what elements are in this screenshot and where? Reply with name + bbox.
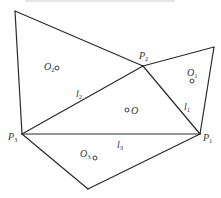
edge-bottom-P1 bbox=[88, 134, 200, 189]
center-O-marker bbox=[125, 108, 129, 112]
label-l3: l3 bbox=[117, 139, 123, 151]
geometry-diagram: O2 P2 O1 l2 O l1 P3 P1 l3 O3 bbox=[0, 0, 221, 198]
edge-P3-bottom bbox=[22, 134, 88, 189]
center-O2-marker bbox=[55, 66, 59, 70]
label-O2: O2 bbox=[44, 61, 54, 73]
label-P1: P1 bbox=[202, 132, 212, 144]
label-O3: O3 bbox=[80, 148, 90, 160]
center-O3-marker bbox=[93, 156, 97, 160]
edge-P2-topright bbox=[143, 47, 214, 66]
center-O1-marker bbox=[190, 79, 194, 83]
label-P2: P2 bbox=[138, 50, 148, 62]
label-O: O bbox=[131, 105, 138, 116]
edge-topleft-P2 bbox=[15, 11, 143, 66]
label-l2: l2 bbox=[76, 88, 82, 100]
label-O1: O1 bbox=[187, 67, 197, 79]
line-l2-P3-P2 bbox=[22, 66, 143, 134]
edge-topright-P1 bbox=[200, 47, 214, 134]
label-l1: l1 bbox=[184, 101, 190, 113]
label-P3: P3 bbox=[7, 131, 17, 143]
cropped-caption-fragment bbox=[25, 0, 175, 2]
edge-topleft-P3 bbox=[15, 11, 22, 134]
